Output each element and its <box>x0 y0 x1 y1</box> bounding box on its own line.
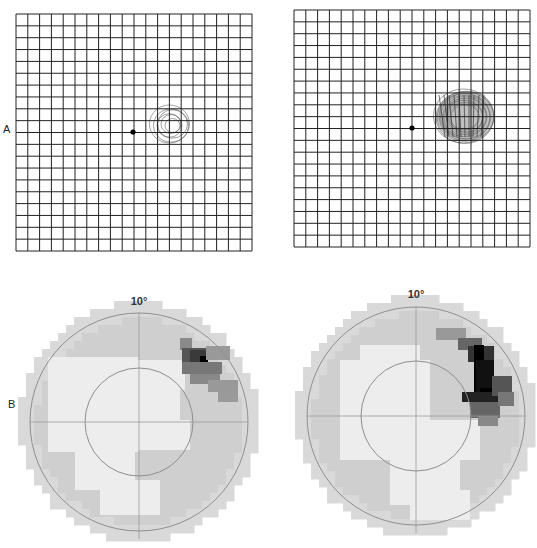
defect-cell <box>208 380 238 392</box>
defect-cell <box>206 346 230 360</box>
defect-cell <box>478 416 498 426</box>
fixation-dot <box>409 125 414 130</box>
field-map-right: 10° <box>295 288 536 536</box>
defect-cell <box>182 362 222 374</box>
amsler-grid-right <box>294 10 530 247</box>
defect-cell <box>218 392 238 402</box>
amsler-grid-left <box>16 14 252 251</box>
defect-cell <box>498 392 514 406</box>
degree-label: 10° <box>131 295 148 307</box>
field-map-left: 10° <box>18 295 259 542</box>
figure-canvas: 10°10° <box>0 0 537 548</box>
degree-label: 10° <box>408 288 425 300</box>
fixation-dot <box>130 129 135 134</box>
